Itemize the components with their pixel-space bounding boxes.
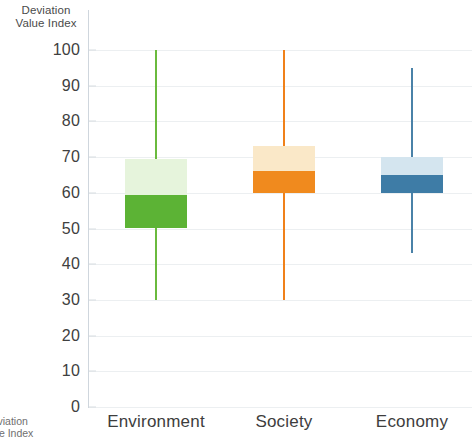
- x-axis-label-economy: Economy: [332, 412, 476, 432]
- y-axis-title-bottom-cropped: Deviation Value Index: [0, 415, 46, 439]
- y-axis-title: Deviation Value Index: [6, 4, 86, 30]
- boxplot-chart: Deviation Value Index Deviation Value In…: [0, 0, 476, 441]
- y-axis-tick-mark: [89, 121, 96, 122]
- y-axis-tick-mark: [89, 264, 96, 265]
- boxplot-society[interactable]: [253, 10, 315, 408]
- y-axis-tick-mark: [89, 85, 96, 86]
- box-lower-quartile[interactable]: [253, 171, 315, 192]
- box-lower-quartile[interactable]: [125, 195, 187, 229]
- y-axis-tick-label: 20: [0, 327, 80, 345]
- y-axis-tick-label: 30: [0, 291, 80, 309]
- y-axis-title-bottom-line1: Deviation: [0, 415, 46, 427]
- y-axis-tick-mark: [89, 407, 96, 408]
- y-axis-tick-mark: [89, 335, 96, 336]
- box-upper-quartile[interactable]: [381, 157, 443, 175]
- boxplot-economy[interactable]: [381, 10, 443, 408]
- y-axis-tick-mark: [89, 192, 96, 193]
- y-axis-tick-label: 60: [0, 184, 80, 202]
- y-axis-tick-mark: [89, 228, 96, 229]
- y-axis-tick-label: 50: [0, 220, 80, 238]
- y-axis-tick-mark: [89, 50, 96, 51]
- boxplot-environment[interactable]: [125, 10, 187, 408]
- y-axis-tick-label: 80: [0, 112, 80, 130]
- y-axis-title-line1: Deviation: [6, 4, 86, 17]
- y-axis-title-bottom-line2: Value Index: [0, 427, 46, 439]
- y-axis-tick-label: 40: [0, 255, 80, 273]
- y-axis-tick-mark: [89, 299, 96, 300]
- y-axis-tick-label: 70: [0, 148, 80, 166]
- y-axis-tick-label: 100: [0, 41, 80, 59]
- y-axis-tick-mark: [89, 157, 96, 158]
- box-upper-quartile[interactable]: [253, 146, 315, 171]
- box-lower-quartile[interactable]: [381, 175, 443, 193]
- y-axis-tick-label: 90: [0, 77, 80, 95]
- y-axis-tick-label: 0: [0, 398, 80, 416]
- y-axis-title-line2: Value Index: [6, 17, 86, 30]
- y-axis-line: [88, 10, 89, 408]
- y-axis-tick-mark: [89, 371, 96, 372]
- plot-area: [88, 10, 472, 408]
- y-axis-tick-label: 10: [0, 362, 80, 380]
- box-upper-quartile[interactable]: [125, 159, 187, 195]
